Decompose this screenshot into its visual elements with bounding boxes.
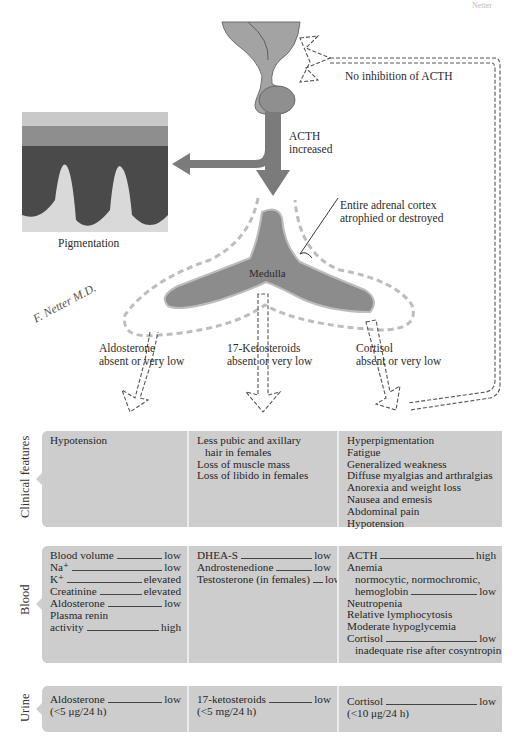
lab-name: activity [50,622,84,634]
acth-arrow [172,112,290,196]
lab-name: (<10 μg/24 h) [347,708,409,720]
leader-line [108,606,163,607]
lab-value-row: hemoglobinlow [347,586,496,598]
lab-result: low [314,694,331,706]
output-label-17-ketosteroids: 17-Ketosteroids absent or very low [227,342,312,367]
lab-name: (<5 μg/24 h) [50,706,106,718]
clinical-cell-cortisol: HyperpigmentationFatigueGeneralized weak… [337,431,502,527]
leader-line [87,630,160,631]
acth-label-line: increased [289,143,332,156]
lab-name: (<5 mg/24 h) [197,706,256,718]
feedback-label: No inhibition of ACTH [345,70,453,83]
clinical-cell-aldosterone: Hypotension [42,431,187,527]
output-name: Aldosterone [99,342,184,355]
output-status: absent or very low [227,355,312,368]
leader-line [386,704,477,705]
lab-value-row: (<10 μg/24 h) [347,708,496,720]
blood-cell-17-ketosteroids: DHEA-SlowAndrostenedionelowTestosterone … [187,546,337,663]
leader-line [386,641,477,642]
pituitary-gland [222,22,300,114]
leader-line [108,702,163,703]
lab-result: low [479,696,496,708]
blood-cell-aldosterone: Blood volumelowNa⁺lowK⁺elevatedCreatinin… [42,546,187,663]
skin-caption: Pigmentation [58,237,119,250]
lab-result: low [479,586,496,598]
blood-row: Blood volumelowNa⁺lowK⁺elevatedCreatinin… [42,546,502,663]
lab-result: high [476,550,496,562]
cell-line: hair in females [197,447,331,459]
cell-line: Hypotension [50,435,181,447]
urine-cell-aldosterone: Aldosteronelow(<5 μg/24 h) [42,686,187,732]
row-label-blood: Blood [18,550,38,650]
row-label-clinical-features: Clinical features [18,432,38,522]
lab-value-row: activityhigh [50,622,181,634]
leader-line [67,582,142,583]
leader-line [100,594,142,595]
clinical-cell-17-ketosteroids: Less pubic and axillaryhair in femalesLo… [187,431,337,527]
leader-line [411,594,477,595]
cell-line: Nausea and emesis [347,494,496,506]
lab-name: hemoglobin [355,586,408,598]
lab-name: Testosterone (in females) [197,574,310,586]
cell-line: Abdominal pain [347,506,496,518]
output-status: absent or very low [99,355,184,368]
lab-result: low [164,694,181,706]
output-name: 17-Ketosteroids [227,342,312,355]
adrenal-gland [165,210,374,312]
leader-line [380,558,474,559]
acth-label: ACTH increased [289,130,332,155]
page-marker: Netter [472,0,492,13]
urine-cell-17-ketosteroids: 17-ketosteroidslow(<5 mg/24 h) [187,686,337,732]
cell-line: Fatigue [347,447,496,459]
row-label-urine: Urine [18,688,38,728]
cell-line: Hypotension [347,518,496,530]
lab-name: inadequate rise after cosyntropin [355,645,501,657]
output-status: absent or very low [356,355,441,368]
blood-cell-cortisol: ACTHhighAnemianormocytic, normochromic,h… [337,546,502,663]
lab-value-row: inadequate rise after cosyntropin [347,645,496,657]
clinical-features-row: Hypotension Less pubic and axillaryhair … [42,431,502,527]
lab-name: normocytic, normochromic, [355,574,480,586]
output-name: Cortisol [356,342,441,355]
leader-line [276,570,312,571]
skin-histology-image [22,112,168,232]
leader-line [269,702,312,703]
acth-label-line: ACTH [289,130,332,143]
leader-line [72,570,162,571]
lab-value-row: normocytic, normochromic, [347,574,496,586]
lab-value-row: Blood volumelow [50,550,181,562]
cortex-label-line: Entire adrenal cortex [340,199,443,212]
lab-result: high [161,622,181,634]
cell-line: Loss of libido in females [197,470,331,482]
lab-name: Cortisol [347,633,383,645]
medulla-label: Medulla [249,267,286,280]
cortex-pointer-line [300,198,338,258]
leader-line [117,558,163,559]
lab-value-row: (<5 μg/24 h) [50,706,181,718]
urine-row: Aldosteronelow(<5 μg/24 h) 17-ketosteroi… [42,686,502,732]
output-label-cortisol: Cortisol absent or very low [356,342,441,367]
cortex-label-line: atrophied or destroyed [340,212,443,225]
leader-line [313,582,323,583]
leader-line [241,558,312,559]
lab-value-row: (<5 mg/24 h) [197,706,331,718]
urine-cell-cortisol: Cortisollow(<10 μg/24 h) [337,686,502,732]
lab-value-row: Testosterone (in females)low [197,574,331,586]
lab-result: low [164,598,181,610]
cortex-label: Entire adrenal cortex atrophied or destr… [340,199,443,224]
output-label-aldosterone: Aldosterone absent or very low [99,342,184,367]
lab-result: low [479,633,496,645]
